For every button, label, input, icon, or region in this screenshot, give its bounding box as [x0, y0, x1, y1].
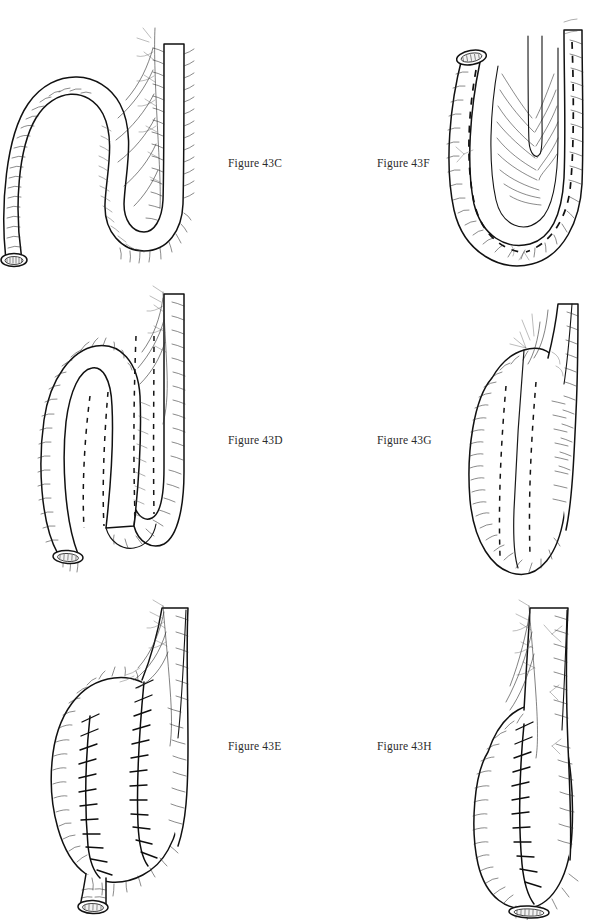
figure-panel-43c	[2, 8, 217, 273]
figure-panel-43e	[22, 606, 222, 916]
figure-plate: Figure 43C	[0, 0, 603, 920]
figure-label-43f: Figure 43F	[377, 157, 430, 169]
figure-panel-43d	[14, 292, 209, 582]
folded-bowel-limbs	[38, 294, 185, 572]
figure-label-43e: Figure 43E	[228, 740, 281, 752]
serosa-hatching-right-limb	[184, 49, 194, 198]
cut-end-stoma	[1, 254, 27, 267]
figure-panel-43g	[448, 302, 598, 587]
figure-43f-illustration	[440, 14, 600, 276]
figure-label-43h: Figure 43H	[377, 740, 432, 752]
figure-43g-illustration	[448, 302, 598, 587]
mucosal-folds	[497, 74, 558, 205]
cut-end-stoma	[53, 549, 84, 564]
figure-label-43d: Figure 43D	[228, 434, 283, 446]
figure-43e-illustration	[22, 606, 222, 916]
closed-pouch	[469, 304, 578, 574]
figure-43c-illustration	[2, 8, 217, 273]
figure-label-43c: Figure 43C	[228, 157, 282, 169]
figure-43d-illustration	[14, 292, 209, 582]
cut-end-stoma	[78, 900, 108, 914]
mesentery-with-vessels	[138, 286, 167, 424]
figure-43h-illustration	[440, 606, 603, 920]
bowel-loop-s-shape	[4, 44, 194, 263]
cut-end-stoma	[509, 905, 549, 918]
figure-label-43g: Figure 43G	[377, 434, 432, 446]
figure-panel-43f	[440, 14, 600, 276]
figure-panel-43h	[440, 606, 603, 920]
cut-end-stoma	[456, 48, 488, 67]
